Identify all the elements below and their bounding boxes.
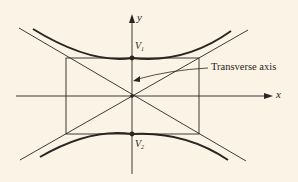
x-axis-arrow-icon [264, 93, 273, 99]
vertex-v2-dot [130, 132, 135, 137]
vertex-v1-dot [130, 56, 135, 61]
transverse-axis-label: Transverse axis [211, 62, 276, 73]
vertex-v2-label: V2 [135, 139, 144, 150]
leader-arrow-icon [133, 76, 140, 82]
center-dot [130, 94, 134, 98]
diagram-canvas [0, 0, 298, 182]
y-axis-label: y [137, 12, 142, 23]
x-axis-label: x [276, 89, 281, 100]
asymptote-ascending [20, 30, 248, 160]
transverse-axis-leader [138, 68, 208, 79]
hyperbola-diagram: y x V1 V2 Transverse axis [0, 0, 298, 182]
hyperbola-lower-branch [40, 133, 228, 160]
y-axis-arrow-icon [129, 14, 135, 23]
vertex-v1-label: V1 [135, 41, 144, 52]
